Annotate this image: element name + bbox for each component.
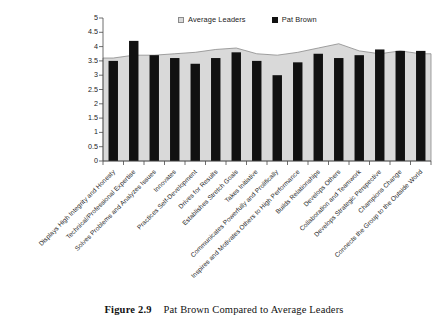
- bar-pat-brown-6: [232, 52, 241, 161]
- bar-pat-brown-4: [191, 64, 200, 161]
- y-axis-tick-3: 3: [94, 71, 98, 79]
- x-axis-label-2: Solves Problems and Analyzes Issues: [73, 168, 157, 252]
- y-axis-tick-1: 1: [94, 128, 98, 136]
- bar-pat-brown-0: [109, 61, 118, 161]
- x-axis-label-0: Displays High Integrity and Honesty: [37, 168, 116, 247]
- bar-pat-brown-7: [252, 61, 261, 161]
- y-axis-tick-2: 2: [94, 100, 98, 108]
- y-axis-tick-labels: 00.511.522.533.544.55: [72, 12, 98, 167]
- bar-pat-brown-2: [150, 55, 159, 161]
- y-axis-tick-0: 0: [94, 157, 98, 165]
- bar-pat-brown-9: [293, 62, 302, 161]
- bar-pat-brown-12: [355, 55, 364, 161]
- bar-pat-brown-5: [211, 58, 220, 161]
- figure-caption: Figure 2.9 Pat Brown Compared to Average…: [0, 304, 448, 315]
- figure-title: Pat Brown Compared to Average Leaders: [164, 304, 344, 315]
- y-axis-tick-4: 4: [94, 43, 98, 51]
- bar-pat-brown-15: [416, 51, 425, 161]
- bar-pat-brown-1: [129, 41, 138, 161]
- y-axis-tick-0-5: 0.5: [88, 143, 98, 151]
- bar-pat-brown-13: [375, 49, 384, 161]
- y-axis-tick-2-5: 2.5: [88, 86, 98, 94]
- bar-pat-brown-3: [170, 58, 179, 161]
- chart-canvas: [103, 18, 431, 161]
- bar-pat-brown-10: [314, 54, 323, 161]
- plot-area: [103, 18, 431, 161]
- y-axis-tick-4-5: 4.5: [88, 28, 98, 36]
- y-axis-tick-1-5: 1.5: [88, 114, 98, 122]
- figure-container: Average Leaders Pat Brown 00.511.522.533…: [0, 0, 448, 317]
- bar-pat-brown-11: [334, 58, 343, 161]
- y-axis-tick-5: 5: [94, 14, 98, 22]
- bar-pat-brown-8: [273, 75, 282, 161]
- y-axis-tick-3-5: 3.5: [88, 57, 98, 65]
- bar-pat-brown-14: [396, 51, 405, 161]
- figure-number: Figure 2.9: [104, 304, 151, 315]
